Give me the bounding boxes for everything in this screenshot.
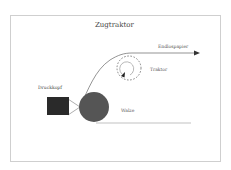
tractor-sprocket-icon [117, 56, 141, 80]
tractor-arrow-icon [121, 72, 125, 78]
label-walze: Walze [121, 108, 134, 113]
paper-feed-upper [68, 99, 80, 107]
tractor-rotation-arrow [120, 62, 134, 75]
platen-roller [79, 92, 109, 122]
label-endlospapier: Endlospapier [158, 44, 188, 49]
paper-feed-lower [68, 107, 80, 115]
label-druckkopf: Druckkopf [38, 85, 62, 90]
paper-arrow-icon [194, 51, 200, 56]
diagram-title: Zugtraktor [95, 21, 134, 29]
printhead-block [47, 97, 69, 115]
label-traktor: Traktor [150, 67, 167, 72]
